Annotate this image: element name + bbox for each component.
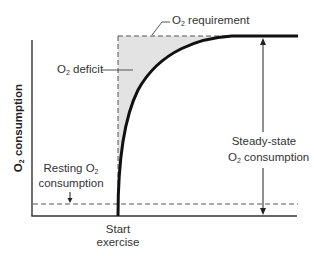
steady-state-line2-suffix: consumption (241, 151, 309, 163)
y-axis-label-suffix: consumption (12, 84, 24, 159)
o2-deficit-prefix: O (57, 63, 66, 75)
o2-deficit-suffix: deficit (70, 63, 103, 75)
start-exercise-label: Start exercise (92, 223, 144, 249)
resting-line1-prefix: Resting O (43, 162, 94, 174)
oxygen-deficit-diagram (0, 0, 314, 256)
steady-state-line1: Steady-state (228, 135, 300, 148)
o2-deficit-label: O2 deficit (57, 63, 103, 76)
y-axis-label-prefix: O (12, 163, 24, 172)
arrow-down-icon (260, 208, 266, 215)
arrow-up-icon (260, 38, 266, 45)
steady-state-line2: O2 consumption (228, 151, 300, 164)
o2-requirement-leader (152, 22, 170, 35)
start-line2: exercise (92, 236, 144, 249)
o2-deficit-area (118, 36, 232, 216)
steady-state-label: Steady-state O2 consumption (228, 135, 300, 164)
resting-o2-label: Resting O2 consumption (38, 162, 104, 190)
resting-line2: consumption (38, 177, 104, 190)
start-line1: Start (92, 223, 144, 236)
steady-state-line2-prefix: O (228, 151, 237, 163)
resting-line1-sub: 2 (95, 168, 99, 175)
y-axis-label-sub: 2 (18, 159, 25, 163)
o2-requirement-prefix: O (172, 14, 181, 26)
o2-requirement-label: O2 requirement (172, 14, 249, 27)
o2-requirement-suffix: requirement (185, 14, 250, 26)
resting-arrow-down-icon (68, 198, 73, 203)
resting-line1: Resting O2 (38, 162, 104, 175)
y-axis-label: O2 consumption (12, 84, 24, 172)
